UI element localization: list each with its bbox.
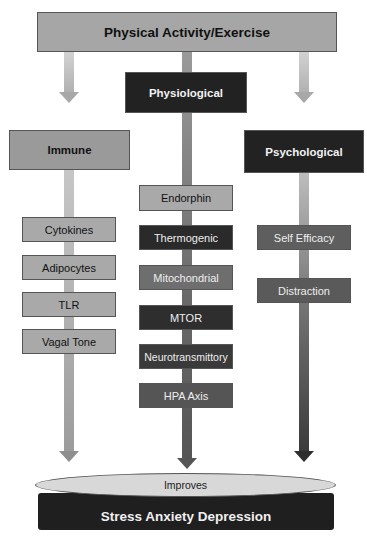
immune-item-cytokines: Cytokines bbox=[22, 217, 116, 242]
physiological-item-thermogenic: Thermogenic bbox=[139, 225, 233, 250]
psychological-label: Psychological bbox=[265, 146, 342, 158]
arrow-psychological-stem bbox=[299, 173, 309, 452]
physiological-item-mitochondrial: Mitochondrial bbox=[139, 265, 233, 290]
physiological-item-endorphin: Endorphin bbox=[139, 185, 233, 211]
physiological-label: Physiological bbox=[149, 87, 223, 99]
psychological-box: Psychological bbox=[244, 130, 364, 173]
physiological-box: Physiological bbox=[125, 72, 247, 113]
immune-item-vagal-tone: Vagal Tone bbox=[22, 329, 116, 354]
physical-activity-label: Physical Activity/Exercise bbox=[104, 25, 270, 40]
psychological-item-distraction: Distraction bbox=[257, 278, 351, 303]
arrow-top-left-head-icon bbox=[59, 92, 79, 103]
immune-label: Immune bbox=[47, 144, 91, 156]
psychological-item-self-efficacy: Self Efficacy bbox=[257, 225, 351, 250]
improves-ellipse: Improves bbox=[35, 473, 336, 497]
physical-activity-box: Physical Activity/Exercise bbox=[37, 12, 337, 52]
immune-box: Immune bbox=[9, 130, 130, 170]
arrow-center-head-icon bbox=[177, 458, 197, 469]
arrow-top-left-stem bbox=[64, 52, 74, 93]
improves-label: Improves bbox=[164, 479, 207, 491]
arrow-top-right-stem bbox=[299, 52, 309, 93]
immune-item-adipocytes: Adipocytes bbox=[22, 255, 116, 280]
immune-item-tlr: TLR bbox=[22, 292, 116, 317]
arrow-top-right-head-icon bbox=[294, 92, 314, 103]
arrow-immune-head-icon bbox=[59, 451, 79, 462]
outcome-bar: Stress Anxiety Depression bbox=[38, 493, 334, 530]
physiological-item-hpa-axis: HPA Axis bbox=[139, 383, 233, 408]
outcome-label: Stress Anxiety Depression bbox=[101, 509, 272, 524]
physiological-item-mtor: MTOR bbox=[139, 305, 233, 330]
arrow-psychological-head-icon bbox=[294, 451, 314, 462]
physiological-item-neurotransmittory: Neurotransmittory bbox=[139, 344, 233, 369]
